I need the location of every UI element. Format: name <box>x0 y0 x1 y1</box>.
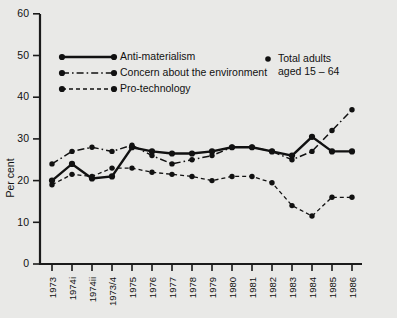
x-axis-tick-label: 1981 <box>247 277 258 298</box>
x-axis-tick-label: 1984 <box>307 277 318 298</box>
data-point <box>349 195 354 200</box>
data-point <box>309 134 315 140</box>
data-point <box>269 149 274 154</box>
data-point <box>69 149 74 154</box>
legend-marker-end <box>111 86 117 92</box>
data-point <box>209 153 214 158</box>
legend-marker-start <box>59 86 65 92</box>
data-point <box>189 150 195 156</box>
x-axis-tick-label: 1979 <box>207 277 218 298</box>
legend-label-1: Concern about the environment <box>120 66 267 78</box>
data-point <box>109 165 114 170</box>
y-axis-tick-label: 10 <box>17 216 29 228</box>
x-axis-tick-label: 1975 <box>127 277 138 298</box>
x-axis-tick-label: 1976 <box>147 277 158 298</box>
chart-figure: 0102030405060Per cent19731974i1974ii1973… <box>0 0 397 318</box>
data-point <box>289 203 294 208</box>
note-line-1: Total adults <box>278 52 331 64</box>
series-line-1 <box>52 110 352 164</box>
x-axis-tick-label: 1985 <box>327 277 338 298</box>
data-point <box>269 180 274 185</box>
x-axis-tick-label: 1973 <box>47 277 58 298</box>
x-axis-tick-label: 1974ii <box>87 277 98 302</box>
y-axis-tick-label: 20 <box>17 174 29 186</box>
x-axis-tick-label: 1980 <box>227 277 238 298</box>
y-axis-tick-label: 60 <box>17 7 29 19</box>
data-point <box>189 174 194 179</box>
data-point <box>349 107 354 112</box>
data-point <box>109 173 115 179</box>
y-axis-tick-label: 30 <box>17 132 29 144</box>
line-chart-canvas: 0102030405060Per cent19731974i1974ii1973… <box>0 0 397 318</box>
x-axis-tick-label: 1974i <box>67 277 78 300</box>
data-point <box>169 161 174 166</box>
note-marker-icon <box>265 56 271 62</box>
data-point <box>129 142 134 147</box>
x-axis-tick-label: 1973/4 <box>107 277 118 306</box>
data-point <box>329 195 334 200</box>
y-axis-tick-label: 0 <box>23 257 29 269</box>
data-point <box>149 153 154 158</box>
series-line-2 <box>52 168 352 216</box>
data-point <box>229 145 234 150</box>
data-point <box>49 182 54 187</box>
legend-marker-end <box>111 70 117 76</box>
data-point <box>249 145 254 150</box>
data-point <box>209 178 214 183</box>
series-line-0 <box>52 137 352 181</box>
data-point <box>329 148 335 154</box>
data-point <box>89 145 94 150</box>
note-line-2: aged 15 – 64 <box>278 65 339 77</box>
y-axis-title: Per cent <box>4 158 16 197</box>
data-point <box>89 174 94 179</box>
data-point <box>309 149 314 154</box>
data-point <box>349 148 355 154</box>
data-point <box>169 172 174 177</box>
data-point <box>69 161 75 167</box>
x-axis-tick-label: 1983 <box>287 277 298 298</box>
data-point <box>149 170 154 175</box>
legend-label-2: Pro-technology <box>120 82 191 94</box>
x-axis-tick-label: 1977 <box>167 277 178 298</box>
data-point <box>109 149 114 154</box>
data-point <box>189 157 194 162</box>
y-axis-tick-label: 50 <box>17 49 29 61</box>
data-point <box>289 157 294 162</box>
legend-marker-start <box>59 70 65 76</box>
data-point <box>329 128 334 133</box>
x-axis-tick-label: 1978 <box>187 277 198 298</box>
data-point <box>249 174 254 179</box>
legend-marker-start <box>59 54 65 60</box>
data-point <box>49 161 54 166</box>
data-point <box>69 172 74 177</box>
data-point <box>129 165 134 170</box>
data-point <box>169 150 175 156</box>
data-point <box>229 174 234 179</box>
legend-label-0: Anti-materialism <box>120 50 196 62</box>
legend-marker-end <box>111 54 117 60</box>
x-axis-tick-label: 1986 <box>347 277 358 298</box>
data-point <box>309 213 314 218</box>
x-axis-tick-label: 1982 <box>267 277 278 298</box>
y-axis-tick-label: 40 <box>17 90 29 102</box>
